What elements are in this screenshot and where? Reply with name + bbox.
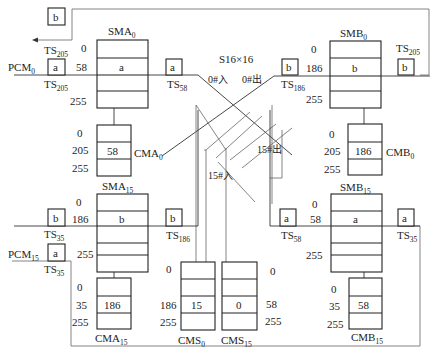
timeslot-ts35-smb15-out: a TS35 [397, 209, 418, 244]
svg-text:CMS15: CMS15 [221, 334, 252, 349]
svg-text:58: 58 [266, 298, 278, 310]
svg-text:TS186: TS186 [166, 229, 190, 244]
svg-text:a: a [119, 61, 124, 73]
svg-text:b: b [170, 212, 176, 224]
svg-text:58: 58 [107, 145, 119, 157]
svg-text:255: 255 [77, 248, 94, 260]
svg-text:255: 255 [160, 316, 177, 328]
svg-text:186: 186 [355, 145, 372, 157]
switch-out0-label: 0#出 [242, 73, 262, 85]
svg-text:58: 58 [358, 299, 370, 311]
memory-cmb0: 186 0 205 255 CMB0 [324, 124, 414, 175]
svg-text:a: a [53, 61, 58, 73]
svg-text:0: 0 [81, 42, 87, 54]
svg-text:CMB15: CMB15 [351, 331, 383, 346]
svg-text:0: 0 [77, 281, 83, 293]
switching-network-diagram: S16×16 0#入 0#出 15#出 15#入 PCM0 PCM15 b TS… [0, 0, 440, 356]
svg-text:255: 255 [306, 249, 323, 261]
svg-text:0: 0 [331, 283, 337, 295]
svg-text:b: b [53, 212, 59, 224]
svg-text:255: 255 [265, 315, 282, 327]
svg-text:TS205: TS205 [44, 78, 68, 93]
svg-text:255: 255 [70, 95, 87, 107]
svg-text:186: 186 [72, 213, 89, 225]
svg-text:15: 15 [191, 299, 203, 311]
svg-text:TS205: TS205 [44, 44, 68, 59]
svg-text:0: 0 [76, 196, 82, 208]
svg-text:PCM0: PCM0 [8, 61, 35, 76]
pcm0-label: PCM0 [8, 61, 35, 76]
timeslot-ts58-sma0-out: a TS58 [166, 59, 188, 93]
svg-text:0: 0 [166, 263, 172, 275]
switch-in15-label: 15#入 [208, 170, 233, 181]
svg-text:SMA0: SMA0 [108, 25, 136, 40]
memory-cms15: 0 0 58 255 CMS15 [221, 262, 282, 349]
memory-cma0: 58 0 205 255 CMA0 [72, 125, 163, 176]
svg-text:255: 255 [72, 162, 89, 174]
svg-text:0: 0 [236, 299, 242, 311]
memory-cmb15: 58 0 35 255 CMB15 [327, 278, 383, 346]
svg-text:CMA0: CMA0 [134, 147, 163, 162]
svg-text:SMB0: SMB0 [340, 27, 367, 42]
svg-text:186: 186 [306, 62, 323, 74]
svg-text:255: 255 [327, 318, 344, 330]
timeslot-ts186-sma15-out: b TS186 [166, 209, 190, 244]
switch-in0-label: 0#入 [208, 74, 228, 85]
svg-text:b: b [352, 62, 358, 74]
svg-text:a: a [53, 247, 58, 259]
svg-text:b: b [286, 61, 292, 73]
svg-text:205: 205 [72, 144, 89, 156]
switch-out15-label: 15#出 [257, 143, 282, 155]
svg-text:255: 255 [324, 163, 341, 175]
svg-text:b: b [53, 11, 59, 23]
svg-text:0: 0 [329, 128, 335, 140]
svg-text:35: 35 [329, 300, 341, 312]
svg-text:TS35: TS35 [397, 229, 418, 244]
svg-text:b: b [119, 213, 125, 225]
svg-text:35: 35 [76, 299, 88, 311]
memory-cma15: 186 0 35 255 CMA15 [72, 278, 131, 347]
svg-text:CMA15: CMA15 [95, 332, 128, 347]
svg-text:TS35: TS35 [44, 228, 65, 243]
svg-text:205: 205 [324, 145, 341, 157]
svg-text:b: b [402, 61, 408, 73]
svg-text:CMS0: CMS0 [178, 334, 205, 349]
memory-smb0: SMB0 b 0 186 255 [306, 27, 381, 108]
svg-text:a: a [402, 212, 407, 224]
svg-text:TS205: TS205 [396, 42, 420, 57]
svg-text:0: 0 [270, 265, 276, 277]
timeslot-ts205-smb0-out: b TS205 [396, 42, 420, 75]
svg-text:0: 0 [312, 198, 318, 210]
memory-sma0: SMA0 a 0 58 255 [70, 25, 148, 108]
timeslot-ts205-in-pcm0: a TS205 [44, 59, 68, 93]
timeslot-ts205-out-pcm0: b TS205 [44, 8, 68, 59]
svg-text:0: 0 [311, 43, 317, 55]
svg-text:SMA15: SMA15 [102, 180, 134, 195]
svg-text:58: 58 [76, 61, 88, 73]
svg-text:TS58: TS58 [167, 78, 188, 93]
timeslot-ts58-smb15-in: a TS58 [280, 209, 302, 244]
space-switch-labels: S16×16 0#入 0#出 15#出 15#入 [208, 53, 282, 181]
svg-text:TS35: TS35 [44, 263, 65, 278]
svg-text:58: 58 [310, 213, 322, 225]
svg-text:TS58: TS58 [281, 229, 302, 244]
svg-text:a: a [170, 61, 175, 73]
svg-text:TS186: TS186 [281, 78, 305, 93]
svg-text:255: 255 [306, 93, 323, 105]
svg-text:186: 186 [160, 299, 177, 311]
memory-smb15: SMB15 a 0 58 255 [306, 181, 382, 272]
svg-text:a: a [353, 213, 358, 225]
memory-cms0: 15 0 186 255 CMS0 [160, 262, 215, 349]
svg-text:255: 255 [72, 316, 89, 328]
svg-text:a: a [284, 212, 289, 224]
svg-text:186: 186 [104, 299, 121, 311]
svg-text:CMB0: CMB0 [386, 146, 414, 161]
switch-title: S16×16 [219, 53, 254, 65]
svg-text:0: 0 [77, 127, 83, 139]
